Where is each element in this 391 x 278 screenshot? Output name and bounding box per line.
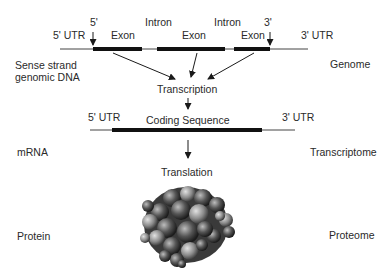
coding-sequence-segment — [112, 128, 262, 132]
mrna-utr3-label: 3' UTR — [282, 111, 314, 123]
genome-label: Genome — [330, 58, 370, 70]
intron-2-label: Intron — [214, 16, 241, 28]
genomic-dna-strand — [60, 47, 308, 51]
exon2-to-transcription-arrow-icon — [191, 53, 197, 77]
coding-sequence-label: Coding Sequence — [146, 114, 229, 126]
exon-1-label: Exon — [111, 29, 135, 41]
sense-strand-label: Sense strand — [15, 59, 77, 71]
genome-utr5-label: 5' UTR — [53, 29, 85, 41]
protein-structure-icon — [140, 186, 235, 268]
mrna-strand — [90, 128, 295, 132]
exon-3-segment — [234, 47, 270, 51]
exon-2-segment — [157, 47, 225, 51]
transcriptome-label: Transcriptome — [310, 146, 377, 158]
genomic-dna-label: genomic DNA — [15, 71, 80, 83]
mrna-label: mRNA — [17, 146, 48, 158]
three-prime-label: 3' — [264, 16, 272, 28]
exon-1-segment — [93, 47, 142, 51]
exon-3-label: Exon — [241, 29, 265, 41]
five-prime-label: 5' — [90, 16, 98, 28]
mrna-utr5-label: 5' UTR — [88, 111, 120, 123]
translation-label: Translation — [161, 166, 213, 178]
transcription-label: Transcription — [157, 83, 217, 95]
exon3-to-transcription-arrow-icon — [208, 53, 254, 79]
proteome-label: Proteome — [329, 229, 375, 241]
genome-utr3-label: 3' UTR — [301, 29, 333, 41]
exon-2-label: Exon — [182, 29, 206, 41]
protein-label: Protein — [17, 230, 50, 242]
exon1-to-transcription-arrow-icon — [113, 53, 175, 79]
intron-1-label: Intron — [145, 16, 172, 28]
